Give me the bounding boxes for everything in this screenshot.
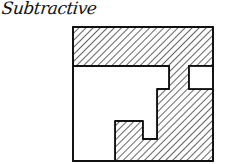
- subtractive-diagram: [0, 0, 225, 164]
- right-notch-void: [189, 66, 213, 89]
